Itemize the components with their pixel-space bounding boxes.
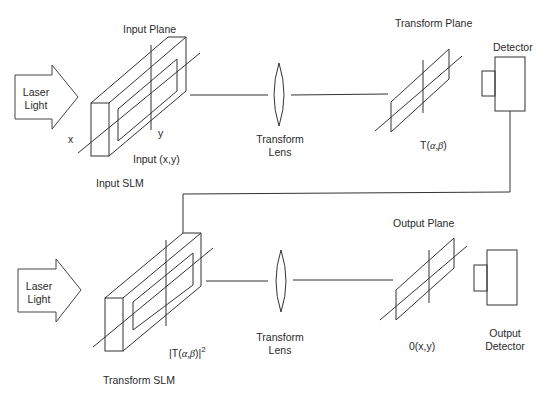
transform-slm-icon	[93, 233, 213, 351]
transform-lens-label: Transform Lens	[250, 133, 310, 159]
output-plane-icon	[380, 238, 467, 320]
detector-icon	[482, 57, 525, 111]
t-suffix: )	[443, 139, 447, 151]
transform-value-label: T(α,β)	[420, 139, 447, 152]
slm-value-label: |T(α,β)|2	[169, 343, 206, 360]
transform-plane-label: Transform Plane	[395, 17, 472, 30]
slm-prefix: |T(	[169, 347, 182, 359]
input-xy-label: Input (x,y)	[133, 153, 180, 166]
lens-label-line1: Transform	[250, 133, 310, 146]
axis-y-label: y	[158, 127, 163, 140]
input-plane-label: Input Plane	[123, 23, 176, 36]
output-detector-icon	[474, 250, 517, 305]
lens-label-line2: Lens	[250, 146, 310, 159]
slm-vars: α,β	[182, 348, 195, 359]
output-plane-label: Output Plane	[393, 217, 454, 230]
transform-slm-label: Transform SLM	[103, 374, 175, 387]
lens-label-line1: Transform	[250, 331, 310, 344]
feedback-wire	[183, 111, 510, 233]
t-vars: α,β	[430, 140, 443, 151]
laser-label-line1: Laser	[17, 280, 61, 293]
detector-label: Detector	[493, 41, 533, 54]
detector-label-line1: Output	[480, 327, 530, 340]
axis-x-label: x	[68, 133, 73, 146]
transform-lens-label: Transform Lens	[250, 331, 310, 357]
input-slm-label: Input SLM	[96, 177, 144, 190]
laser-label-line1: Laser	[14, 86, 58, 99]
transform-lens-icon	[276, 250, 286, 312]
optical-axis-top-2	[291, 94, 388, 95]
output-detector-label: Output Detector	[480, 327, 530, 353]
laser-label-line2: Light	[17, 293, 61, 306]
lens-label-line2: Lens	[250, 344, 310, 357]
transform-lens-icon	[274, 63, 284, 126]
laser-light-label: Laser Light	[17, 280, 61, 306]
transform-plane-icon	[375, 49, 462, 132]
output-value-label: 0(x,y)	[409, 340, 435, 353]
laser-light-label: Laser Light	[14, 86, 58, 112]
detector-label-line2: Detector	[480, 340, 530, 353]
input-slm-icon	[78, 37, 200, 156]
t-prefix: T(	[420, 139, 430, 151]
laser-label-line2: Light	[14, 99, 58, 112]
slm-exp: 2	[201, 345, 205, 354]
